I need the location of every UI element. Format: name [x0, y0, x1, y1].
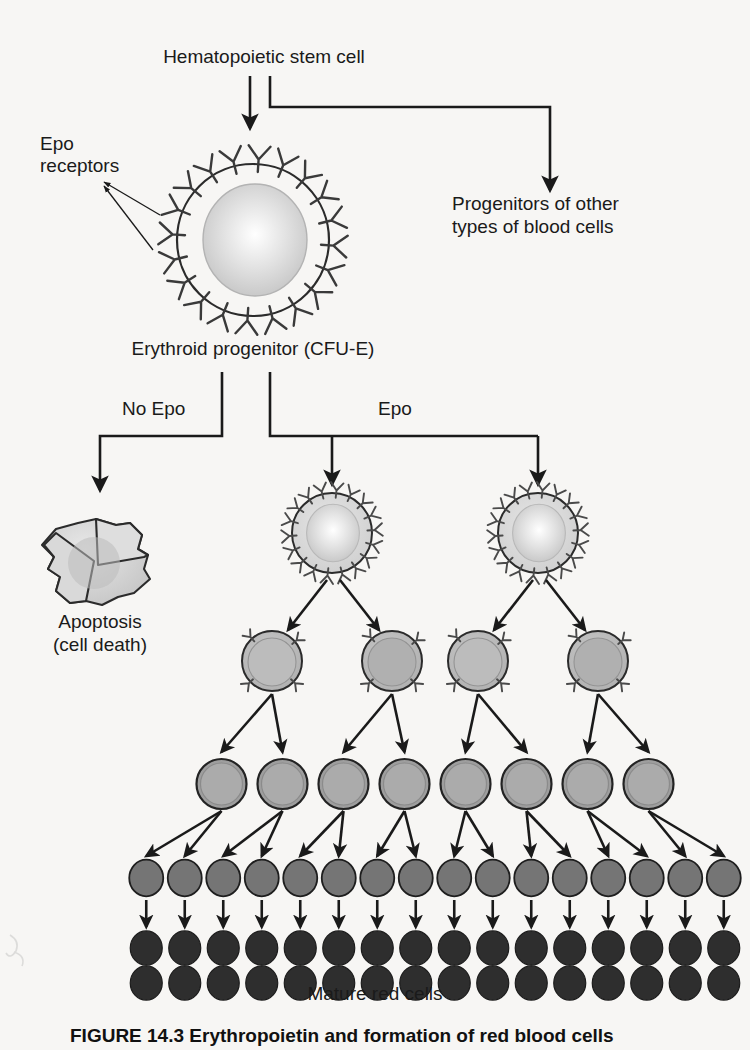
mature-red-cell-row-1	[361, 931, 393, 965]
erythroblast-row	[319, 759, 369, 809]
label-erythroid-progenitor: Erythroid progenitor (CFU-E)	[132, 338, 375, 359]
mature-red-cell-row-2	[554, 966, 586, 1000]
reticulocyte-row	[283, 860, 317, 897]
reticulocyte-row	[707, 860, 741, 897]
mature-red-cell-row-1	[515, 931, 547, 965]
reticulocyte-row	[168, 860, 202, 897]
label-progenitors-line2: types of blood cells	[452, 216, 614, 237]
mature-red-cell-row-1	[438, 931, 470, 965]
label-apoptosis-line1: Apoptosis	[58, 611, 141, 632]
label-no-epo: No Epo	[122, 398, 185, 419]
erythropoiesis-diagram: Hematopoietic stem cell Progenitors of o…	[0, 0, 750, 1050]
reticulocyte-row	[630, 860, 664, 897]
mature-red-cell-row-1	[400, 931, 432, 965]
reticulocyte-row	[322, 860, 356, 897]
apoptotic-cell-fragments	[42, 519, 150, 605]
mature-red-cell-row-1	[669, 931, 701, 965]
reticulocyte-row	[360, 860, 394, 897]
label-epo-receptors-line1: Epo	[40, 133, 74, 154]
mature-red-cell-row-2	[477, 966, 509, 1000]
figure-caption: FIGURE 14.3 Erythropoietin and formation…	[70, 1025, 614, 1046]
mature-red-cell-row-2	[207, 966, 239, 1000]
mature-red-cell-row-2	[669, 966, 701, 1000]
mature-red-cell-row-2	[246, 966, 278, 1000]
figure-root: Hematopoietic stem cell Progenitors of o…	[0, 0, 750, 1050]
label-mature-red-cells: Mature red cells	[307, 983, 442, 1004]
reticulocyte-row	[129, 860, 163, 897]
reticulocyte-row	[476, 860, 510, 897]
reticulocyte-row	[553, 860, 587, 897]
mature-red-cell-row-2	[130, 966, 162, 1000]
mature-red-cell-row-2	[438, 966, 470, 1000]
mature-red-cell-row-1	[284, 931, 316, 965]
erythroblast-row	[563, 759, 613, 809]
reticulocyte-row	[206, 860, 240, 897]
mature-red-cell-row-1	[708, 931, 740, 965]
mature-red-cell-row-1	[130, 931, 162, 965]
mature-red-cell-row-1	[323, 931, 355, 965]
mature-red-cell-row-2	[631, 966, 663, 1000]
reticulocyte-row	[245, 860, 279, 897]
mature-red-cell-row-1	[592, 931, 624, 965]
mature-red-cell-row-1	[554, 931, 586, 965]
label-progenitors-line1: Progenitors of other	[452, 193, 620, 214]
reticulocyte-row	[514, 860, 548, 897]
erythroblast-row	[380, 759, 430, 809]
reticulocyte-row	[399, 860, 433, 897]
erythroblast-row	[197, 759, 247, 809]
mature-red-cell-row-1	[169, 931, 201, 965]
label-hematopoietic-stem-cell: Hematopoietic stem cell	[163, 46, 365, 67]
erythroblast-row	[441, 759, 491, 809]
label-epo: Epo	[378, 398, 412, 419]
mature-red-cell-row-1	[631, 931, 663, 965]
reticulocyte-row	[668, 860, 702, 897]
erythroblast-row	[502, 759, 552, 809]
reticulocyte-row	[437, 860, 471, 897]
mature-red-cell-row-2	[515, 966, 547, 1000]
label-epo-receptors-line2: receptors	[40, 155, 119, 176]
mature-red-cell-row-2	[708, 966, 740, 1000]
mature-red-cell-row-1	[477, 931, 509, 965]
mature-red-cell-row-2	[169, 966, 201, 1000]
label-apoptosis-line2: (cell death)	[53, 634, 147, 655]
mature-red-cell-row-2	[592, 966, 624, 1000]
erythroblast-row	[624, 759, 674, 809]
erythroblast-row	[258, 759, 308, 809]
reticulocyte-row	[591, 860, 625, 897]
mature-red-cell-row-1	[207, 931, 239, 965]
mature-red-cell-row-1	[246, 931, 278, 965]
